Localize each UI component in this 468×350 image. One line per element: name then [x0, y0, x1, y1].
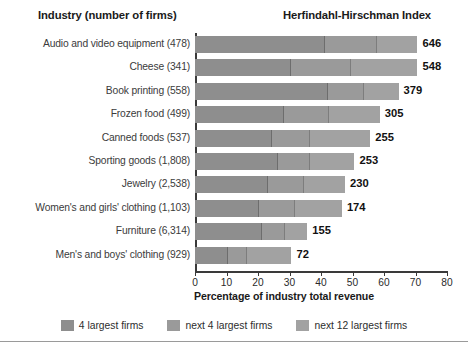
x-tick [384, 271, 385, 276]
x-tick [227, 271, 228, 276]
legend-label: 4 largest firms [79, 320, 144, 331]
chart-row: Book printing (558)379 [0, 81, 468, 104]
chart-row: Jewelry (2,538)230 [0, 174, 468, 197]
category-label: Men's and boys' clothing (929) [55, 249, 190, 260]
stacked-bar [195, 223, 307, 240]
value-label: 548 [423, 60, 442, 72]
industry-column-title: Industry (number of firms) [38, 9, 177, 21]
x-tick-label: 40 [315, 277, 326, 288]
x-tick-label: 60 [378, 277, 389, 288]
chart-legend: 4 largest firmsnext 4 largest firmsnext … [0, 316, 468, 334]
bar-segment-2 [267, 176, 303, 193]
chart-row: Cheese (341)548 [0, 57, 468, 80]
stacked-bar [195, 83, 399, 100]
category-label: Cheese (341) [129, 61, 190, 72]
bar-segment-1 [195, 153, 277, 170]
value-label: 255 [375, 131, 394, 143]
legend-swatch [61, 320, 74, 331]
chart-header: Industry (number of firms) Herfindahl-Hi… [0, 9, 468, 29]
chart-row: Women's and girls' clothing (1,103)174 [0, 198, 468, 221]
x-axis-title: Percentage of industry total revenue [194, 290, 374, 302]
value-label: 174 [347, 201, 366, 213]
stacked-bar [195, 130, 370, 147]
bar-segment-3 [294, 200, 342, 217]
x-tick [353, 271, 354, 276]
value-label: 230 [350, 177, 369, 189]
chart-row: Men's and boys' clothing (929)72 [0, 245, 468, 268]
bottom-divider [0, 341, 468, 342]
value-label: 155 [312, 224, 331, 236]
legend-item: next 4 largest firms [167, 320, 272, 331]
x-tick-label: 50 [347, 277, 358, 288]
hhi-bar-chart: Industry (number of firms) Herfindahl-Hi… [0, 0, 468, 350]
bar-segment-1 [195, 247, 227, 264]
stacked-bar [195, 36, 417, 53]
bar-segment-2 [261, 223, 284, 240]
value-label: 72 [297, 248, 309, 260]
bar-segment-2 [327, 83, 363, 100]
chart-row: Frozen food (499)305 [0, 104, 468, 127]
bar-segment-3 [363, 83, 399, 100]
x-tick-label: 70 [410, 277, 421, 288]
category-label: Women's and girls' clothing (1,103) [35, 202, 190, 213]
value-label: 646 [423, 37, 442, 49]
hhi-column-title: Herfindahl-Hirschman Index [283, 9, 431, 21]
bar-segment-1 [195, 200, 258, 217]
x-axis-title-wrap: Percentage of industry total revenue [0, 290, 468, 302]
category-label: Canned foods (537) [102, 132, 190, 143]
x-tick-label: 10 [221, 277, 232, 288]
bar-segment-1 [195, 223, 261, 240]
legend-item: 4 largest firms [61, 320, 144, 331]
x-tick-label: 0 [192, 277, 198, 288]
bar-segment-1 [195, 106, 283, 123]
bar-segment-3 [350, 59, 417, 76]
x-tick [258, 271, 259, 276]
stacked-bar [195, 153, 354, 170]
bar-segment-1 [195, 36, 324, 53]
bar-segment-3 [309, 130, 370, 147]
bar-segment-1 [195, 59, 290, 76]
bar-segment-1 [195, 176, 267, 193]
chart-row: Audio and video equipment (478)646 [0, 34, 468, 57]
bar-segment-2 [258, 200, 294, 217]
plot-area: Audio and video equipment (478)646Cheese… [0, 33, 468, 273]
x-tick-label: 30 [284, 277, 295, 288]
bar-segment-3 [284, 223, 307, 240]
x-tick-label: 20 [252, 277, 263, 288]
bar-segment-1 [195, 83, 327, 100]
bar-segment-1 [195, 130, 271, 147]
stacked-bar [195, 176, 345, 193]
stacked-bar [195, 247, 291, 264]
x-tick [195, 271, 196, 276]
bar-segment-3 [309, 153, 354, 170]
x-tick [290, 271, 291, 276]
legend-label: next 12 largest firms [314, 320, 407, 331]
legend-swatch [296, 320, 309, 331]
x-tick-label: 80 [441, 277, 452, 288]
legend-label: next 4 largest firms [185, 320, 272, 331]
chart-row: Canned foods (537)255 [0, 128, 468, 151]
x-tick [321, 271, 322, 276]
category-label: Frozen food (499) [111, 108, 190, 119]
category-label: Audio and video equipment (478) [43, 38, 190, 49]
x-tick [447, 271, 448, 276]
stacked-bar [195, 59, 417, 76]
category-label: Furniture (6,314) [116, 225, 190, 236]
category-label: Jewelry (2,538) [122, 178, 190, 189]
stacked-bar [195, 106, 380, 123]
legend-swatch [167, 320, 180, 331]
category-label: Sporting goods (1,808) [89, 155, 190, 166]
category-label: Book printing (558) [106, 85, 190, 96]
bar-segment-2 [271, 130, 310, 147]
stacked-bar [195, 200, 342, 217]
bar-segment-2 [277, 153, 310, 170]
bar-segment-3 [328, 106, 379, 123]
legend-item: next 12 largest firms [296, 320, 407, 331]
value-label: 253 [360, 154, 379, 166]
bar-segment-2 [324, 36, 375, 53]
x-axis: 01020304050607080 Percentage of industry… [0, 271, 468, 311]
bar-segment-2 [290, 59, 351, 76]
bar-segment-2 [283, 106, 328, 123]
value-label: 305 [385, 107, 404, 119]
chart-row: Furniture (6,314)155 [0, 221, 468, 244]
